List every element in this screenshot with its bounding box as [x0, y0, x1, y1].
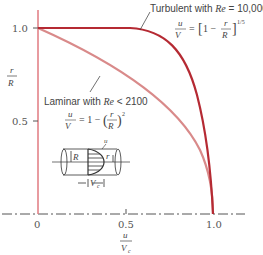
- svg-text:r: r: [224, 18, 228, 28]
- inset-c-label: c: [97, 183, 100, 189]
- svg-text:Turbulent with Re = 10,000: Turbulent with Re = 10,000: [150, 3, 263, 14]
- inset-R-label: R: [72, 152, 79, 162]
- svg-text:u: u: [68, 109, 73, 119]
- y-tick-label-05: 0.5: [12, 116, 28, 127]
- svg-text:u: u: [123, 230, 128, 240]
- svg-text:r: r: [110, 109, 114, 119]
- svg-text:Laminar with Re < 2100: Laminar with Re < 2100: [44, 96, 148, 107]
- x-tick-label-0: 0: [34, 219, 40, 230]
- svg-text:V: V: [65, 121, 72, 131]
- svg-text:R: R: [221, 30, 228, 40]
- x-tick-label-1: 1.0: [206, 219, 222, 230]
- inset-u-label: u: [104, 137, 108, 145]
- velocity-profile-chart: 1.0 0.5 0 0.5 1.0 r R u V c Turbulent wi…: [0, 0, 263, 255]
- laminar-leader: [90, 76, 100, 92]
- svg-text:2: 2: [122, 111, 125, 117]
- y-axis-label: r R: [7, 65, 17, 88]
- svg-text:= 1 −: = 1 −: [79, 114, 101, 125]
- inset-r-label: r: [106, 151, 110, 161]
- svg-text:1/5: 1/5: [237, 19, 245, 25]
- turbulent-leader: [140, 12, 150, 30]
- turbulent-annotation: Turbulent with Re = 10,000 u V = [ 1 − r…: [150, 3, 263, 40]
- svg-text:R: R: [7, 78, 14, 88]
- x-tick-label-05: 0.5: [118, 219, 134, 230]
- svg-text:r: r: [10, 65, 14, 75]
- laminar-annotation: Laminar with Re < 2100 u V = 1 − ( r R )…: [44, 96, 148, 131]
- svg-text:u: u: [178, 18, 183, 28]
- svg-text:R: R: [107, 121, 114, 131]
- x-axis-label: u V c: [120, 230, 132, 254]
- y-tick-label-1: 1.0: [12, 23, 28, 34]
- svg-text:1 −: 1 −: [203, 23, 217, 34]
- svg-text:]: ]: [232, 21, 237, 36]
- svg-text:V: V: [175, 30, 182, 40]
- svg-text:V: V: [121, 243, 128, 253]
- svg-text:=: =: [189, 23, 195, 34]
- svg-text:c: c: [128, 248, 131, 254]
